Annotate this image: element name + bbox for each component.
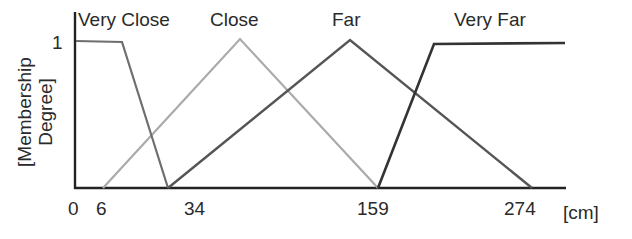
x-tick-274: 274 — [504, 199, 536, 218]
label-very-far: Very Far — [454, 10, 526, 29]
label-very-close: Very Close — [78, 10, 170, 29]
x-tick-0: 0 — [68, 199, 79, 218]
y-axis-label: [Membership Degree] — [14, 57, 56, 167]
y-axis-label-line1: [Membership — [14, 57, 35, 167]
y-tick-1: 1 — [52, 33, 63, 52]
series-very-far-line — [378, 43, 565, 188]
x-tick-6: 6 — [96, 199, 107, 218]
label-close: Close — [210, 10, 259, 29]
series-far-line — [168, 40, 532, 188]
x-axis-unit-label: [cm] — [563, 203, 599, 222]
y-axis-label-line2: Degree] — [35, 57, 56, 167]
x-tick-34: 34 — [184, 199, 205, 218]
x-tick-159: 159 — [357, 199, 389, 218]
membership-function-chart — [0, 0, 632, 239]
label-far: Far — [332, 10, 361, 29]
